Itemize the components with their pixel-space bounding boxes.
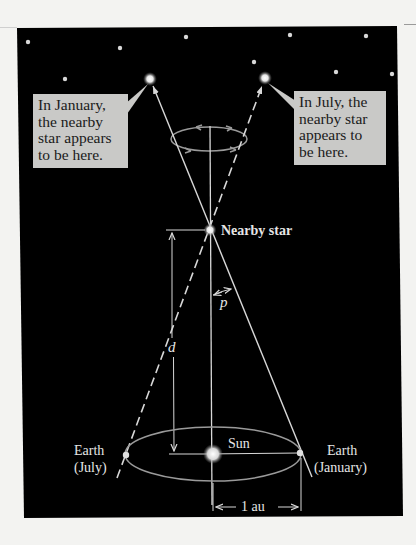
earth-july	[123, 452, 129, 458]
earth-january-label-line1: Earth	[327, 443, 357, 458]
callout-january-line: the nearby	[38, 114, 124, 131]
callout-july-line: In July, the	[299, 94, 382, 111]
background-star	[63, 77, 67, 81]
parallax-diagram: d p Sun Earth (July) Earth (January) 1 a…	[0, 0, 416, 545]
background-star	[334, 70, 338, 74]
callout-january: In January, the nearby star appears to b…	[33, 94, 128, 168]
callout-july: In July, the nearby star appears to be h…	[294, 91, 386, 165]
background-star	[118, 46, 122, 50]
earth-january	[297, 450, 303, 456]
callout-january-line: to be here.	[38, 147, 124, 164]
callout-january-line: star appears	[38, 130, 124, 147]
background-star	[288, 33, 292, 37]
au-label: 1 au	[241, 499, 265, 514]
callout-january-line: In January,	[38, 97, 124, 114]
callout-july-line: be here.	[299, 144, 382, 161]
earth-january-label-line2: (January)	[314, 460, 367, 476]
earth-july-label-line2: (July)	[74, 460, 107, 476]
background-star	[364, 34, 368, 38]
nearby-star-label: Nearby star	[221, 223, 292, 238]
callout-july-line: nearby star	[299, 111, 382, 128]
nearby-star	[204, 224, 217, 237]
distance-label: d	[168, 339, 176, 355]
parallax-angle-label: p	[219, 294, 228, 310]
background-star	[184, 35, 188, 39]
callout-july-line: appears to	[299, 127, 382, 144]
apparent-star-january	[143, 72, 157, 86]
sun-label: Sun	[228, 436, 250, 451]
background-star	[390, 72, 394, 76]
background-star	[252, 60, 256, 64]
background-star	[26, 40, 30, 44]
distance-arrow-down	[174, 357, 175, 451]
apparent-star-july	[258, 71, 272, 85]
sun	[203, 444, 223, 464]
earth-july-label-line1: Earth	[74, 443, 104, 458]
